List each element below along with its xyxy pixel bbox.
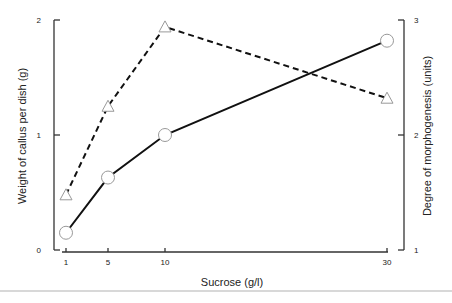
axis-labels: Sucrose (g/l) Weight of callus per dish … [16, 56, 433, 288]
y2-tick-label: 1 [414, 246, 419, 255]
y2-tick-label: 2 [414, 131, 419, 140]
y-tick-label: 2 [37, 16, 42, 25]
circle-marker [381, 34, 394, 47]
x-tick-label: 30 [383, 258, 392, 267]
bottom-divider [0, 290, 452, 292]
x-tick-label: 5 [106, 258, 111, 267]
y2-tick-label: 3 [414, 16, 419, 25]
triangle-marker [60, 189, 72, 200]
circle-marker [159, 129, 172, 142]
x-axis-label: Sucrose (g/l) [201, 276, 263, 288]
x-tick-label: 10 [161, 258, 170, 267]
triangle-marker [159, 21, 171, 32]
series-layer [60, 21, 394, 239]
circle-marker [60, 226, 73, 239]
x-tick-label: 1 [64, 258, 69, 267]
axes: 012123151030 [37, 16, 419, 267]
y-tick-label: 1 [37, 131, 42, 140]
y2-axis-label: Degree of morphogenesis (units) [421, 56, 433, 216]
callus-weight-line [66, 41, 387, 233]
circle-marker [102, 171, 115, 184]
y-axis-label: Weight of callus per dish (g) [16, 68, 28, 204]
chart: 012123151030 Sucrose (g/l) Weight of cal… [0, 0, 452, 303]
y-tick-label: 0 [37, 246, 42, 255]
